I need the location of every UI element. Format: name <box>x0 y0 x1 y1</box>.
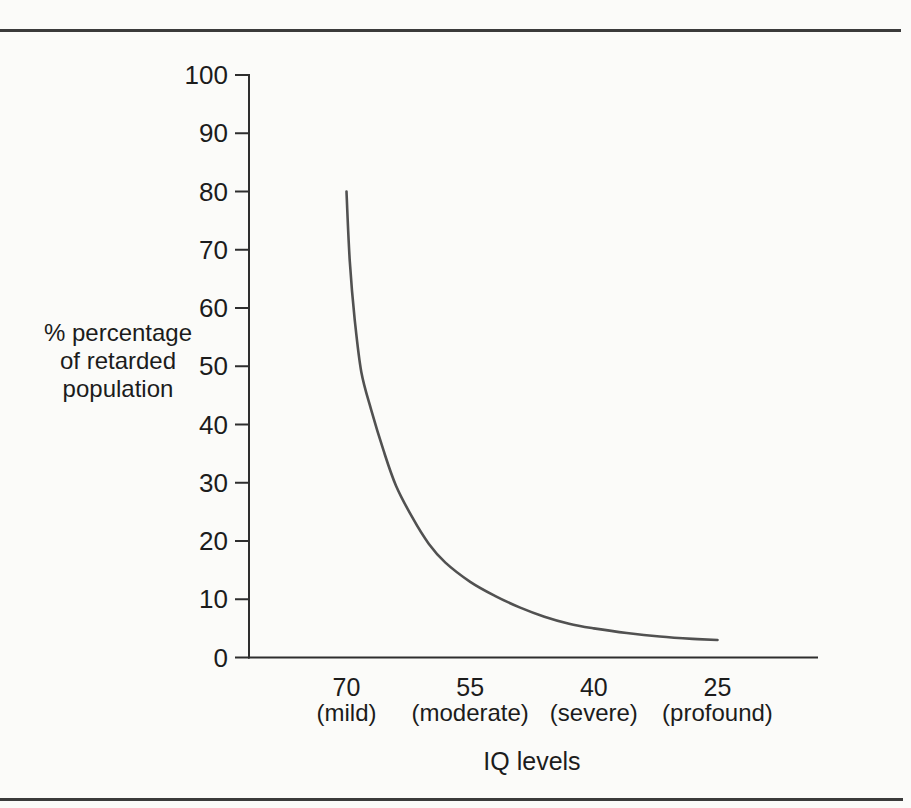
y-tick-label: 90 <box>144 119 228 147</box>
figure-panel: % percentage of retarded population IQ l… <box>0 0 911 808</box>
x-tick-value: 25 <box>629 674 805 700</box>
y-tick-label: 40 <box>144 411 228 439</box>
data-curve <box>347 192 718 641</box>
y-tick-label: 20 <box>144 527 228 555</box>
x-tick-category: (profound) <box>629 700 805 726</box>
y-tick-label: 80 <box>144 178 228 206</box>
x-axis-title: IQ levels <box>432 747 632 776</box>
y-tick-label: 70 <box>144 236 228 264</box>
x-tick-label: 25(profound) <box>629 674 805 726</box>
y-tick-label: 50 <box>144 352 228 380</box>
y-tick-label: 10 <box>144 585 228 613</box>
y-tick-label: 100 <box>144 61 228 89</box>
y-tick-label: 30 <box>144 469 228 497</box>
y-tick-label: 0 <box>144 644 228 672</box>
y-tick-label: 60 <box>144 294 228 322</box>
bottom-divider-rule <box>0 798 903 801</box>
